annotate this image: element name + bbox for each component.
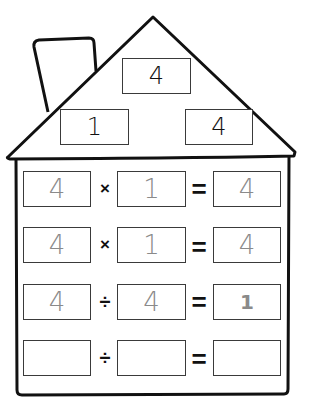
- roof-right-box[interactable]: 4: [185, 109, 253, 145]
- equals-icon: =: [189, 171, 209, 207]
- row-3-second-box[interactable]: 4: [117, 284, 186, 320]
- row-2-result-box[interactable]: 4: [213, 227, 281, 263]
- divide-icon: ÷: [95, 284, 115, 320]
- equals-icon: =: [189, 284, 209, 320]
- equals-icon: =: [189, 341, 209, 377]
- row-1-result-box[interactable]: 4: [213, 171, 281, 207]
- row-3-first-box[interactable]: 4: [23, 284, 91, 320]
- roof-left-number: 1: [87, 113, 102, 141]
- row-1-first-value: 4: [49, 174, 66, 204]
- row-3-result-box[interactable]: 1: [213, 284, 281, 320]
- row-1-second-value: 1: [143, 174, 160, 204]
- row-2-second-value: 1: [143, 230, 160, 260]
- row-4-first-box[interactable]: [23, 340, 91, 376]
- roof-left-box[interactable]: 1: [60, 109, 129, 145]
- roof-top-box[interactable]: 4: [122, 58, 191, 94]
- row-2-result-value: 4: [239, 230, 256, 260]
- row-1-first-box[interactable]: 4: [23, 171, 91, 207]
- row-4-result-box[interactable]: [213, 340, 281, 376]
- equals-icon: =: [189, 229, 209, 265]
- row-1-second-box[interactable]: 1: [117, 171, 186, 207]
- row-3-result-value: 1: [240, 290, 254, 314]
- row-2-second-box[interactable]: 1: [117, 227, 186, 263]
- times-icon: ×: [95, 227, 115, 263]
- times-icon: ×: [95, 171, 115, 207]
- row-2-first-value: 4: [49, 230, 66, 260]
- row-3-second-value: 4: [143, 287, 160, 317]
- divide-icon: ÷: [95, 340, 115, 376]
- row-1-result-value: 4: [239, 174, 256, 204]
- roof-top-number: 4: [149, 62, 164, 90]
- roof-right-number: 4: [211, 113, 226, 141]
- row-2-first-box[interactable]: 4: [23, 227, 91, 263]
- row-4-second-box[interactable]: [117, 340, 186, 376]
- row-3-first-value: 4: [49, 287, 66, 317]
